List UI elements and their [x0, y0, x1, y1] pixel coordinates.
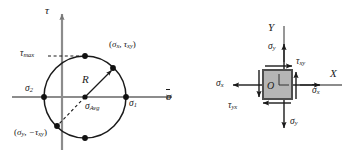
sigma-1-label: σ1 [129, 99, 137, 109]
element-y-axis-label: Y [268, 22, 274, 33]
point-sigma-avg [82, 94, 87, 99]
point-sigma-x-tau-xy-label: (σx, τxy) [109, 40, 136, 50]
point-sigma-x-tau-xy [110, 65, 116, 71]
sigma-x-right-label: σx [312, 86, 320, 96]
tau-yx-label: τyx [228, 101, 237, 111]
point-tau-min [82, 135, 88, 141]
point-sigma-y-neg-tau-xy [54, 123, 60, 129]
tau-axis-label: τ [45, 5, 49, 16]
sigma-y-bottom-label: σy [290, 117, 298, 127]
sigma-2-label: σ2 [25, 84, 33, 94]
element-origin-label: O [267, 81, 274, 91]
point-tau-max [82, 53, 88, 59]
sigma-axis-label: σ [166, 91, 171, 102]
sigma-axis-overbar: σ [166, 91, 171, 102]
sigma-y-top-label: σy [268, 42, 276, 52]
sigma-x-left-label: σx [216, 79, 224, 89]
sigma-avg-label: σAvg [85, 102, 99, 112]
radius-label: R [82, 74, 89, 85]
figure-vector-layer [0, 0, 354, 160]
tau-xy-label: τxy [296, 57, 305, 67]
sigma-x-right-overbar: σx [312, 86, 320, 96]
element-x-axis-label: X [330, 68, 337, 79]
stress-analysis-figure: τ σ τmax σ2 σ1 σAvg R (σx, τxy) (σy, −τx… [0, 0, 354, 160]
point-sigma-y-neg-tau-xy-label: (σy, −τxy) [14, 128, 47, 138]
tau-max-label: τmax [20, 49, 34, 59]
point-sigma-2 [41, 94, 47, 100]
